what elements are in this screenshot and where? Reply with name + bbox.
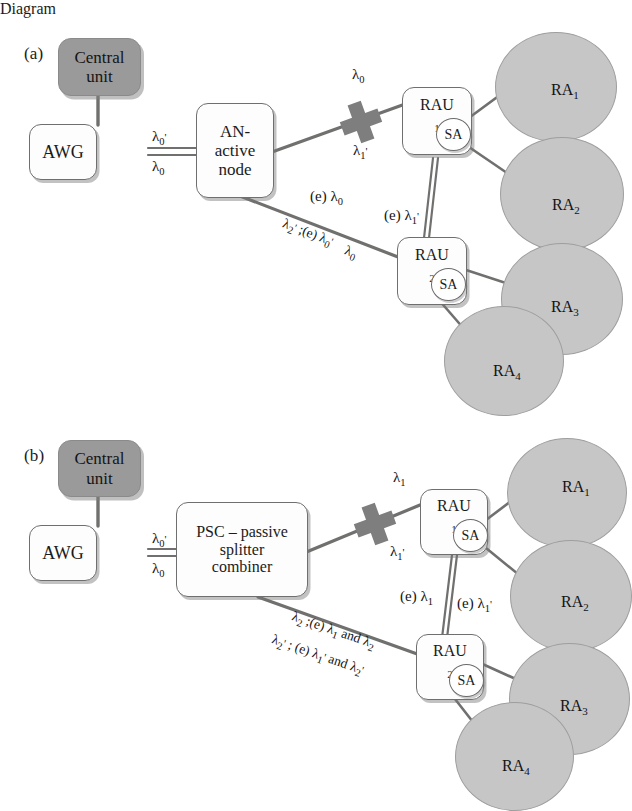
optical-cross-panel-b[interactable]	[349, 498, 400, 549]
ra2-label-panel-b: RA2	[561, 593, 589, 613]
awg-label: AWG	[42, 142, 84, 162]
sa-bubble-rau2-panel-a[interactable]: SA	[431, 268, 466, 301]
awg-box-panel-a[interactable]: AWG	[29, 124, 97, 180]
label-cross-bottom-panel-b: λ1'	[390, 543, 405, 562]
central-unit-line2: unit	[74, 67, 124, 86]
awg-label: AWG	[42, 543, 84, 563]
label-awg-down-panel-b: λ0	[152, 560, 165, 579]
label-cross-top-panel-b: λ1	[393, 469, 406, 488]
sa-label: SA	[445, 127, 463, 143]
ra1-label-panel-a: RA1	[551, 81, 579, 101]
central-unit-line1: Central	[74, 449, 124, 468]
ra4-label-panel-b: RA4	[502, 757, 530, 777]
central-unit-box-panel-b[interactable]: Central unit	[58, 440, 141, 497]
an-line3: node	[215, 160, 256, 179]
label-e-lambda1p-panel-a: (e) λ1'	[384, 207, 419, 226]
sa-label: SA	[440, 277, 458, 293]
label-cross-top-panel-a: λ0	[352, 66, 365, 85]
ra2-label-panel-a: RA2	[552, 196, 580, 216]
sa-label: SA	[462, 528, 480, 544]
cell-ra2-panel-a	[500, 137, 624, 251]
sa-bubble-rau1-panel-b[interactable]: SA	[453, 519, 488, 552]
central-unit-line1: Central	[74, 48, 124, 67]
label-awg-up-panel-a: λ0'	[152, 128, 167, 147]
label-awg-down-panel-a: λ0	[152, 158, 165, 177]
ra3-label-panel-a: RA3	[551, 298, 579, 318]
an-line2: active	[215, 141, 256, 160]
psc-line1: PSC – passive	[196, 523, 288, 541]
central-unit-box-panel-a[interactable]: Central unit	[58, 38, 141, 96]
optical-cross-panel-a[interactable]	[335, 96, 386, 147]
ra1-label-panel-b: RA1	[562, 478, 590, 498]
label-e-lambda1-panel-b: (e) λ1	[400, 588, 433, 607]
panel-a-label: (a)	[24, 44, 43, 64]
psc-line2: splitter	[196, 541, 288, 559]
sa-bubble-rau1-panel-a[interactable]: SA	[436, 118, 471, 151]
psc-box-panel-b[interactable]: PSC – passive splitter combiner	[176, 502, 308, 597]
central-unit-line2: unit	[74, 469, 124, 488]
ra4-label-panel-a: RA4	[493, 362, 521, 382]
an-active-node-box-panel-a[interactable]: AN- active node	[196, 103, 274, 198]
ra3-label-panel-b: RA3	[560, 697, 588, 717]
label-awg-up-panel-b: λ0'	[152, 530, 167, 549]
label-e-lambda1p-panel-b: (e) λ1'	[457, 595, 492, 614]
cell-ra4-panel-a	[444, 306, 564, 416]
awg-box-panel-b[interactable]: AWG	[29, 525, 97, 581]
label-e-lambda0-panel-a: (e) λ0	[310, 188, 343, 207]
panel-b-label: (b)	[24, 446, 44, 466]
psc-line3: combiner	[196, 558, 288, 576]
sa-label: SA	[458, 673, 476, 689]
label-cross-bottom-panel-a: λ1'	[353, 142, 368, 161]
an-line1: AN-	[215, 122, 256, 141]
sa-bubble-rau2-panel-b[interactable]: SA	[449, 664, 484, 697]
